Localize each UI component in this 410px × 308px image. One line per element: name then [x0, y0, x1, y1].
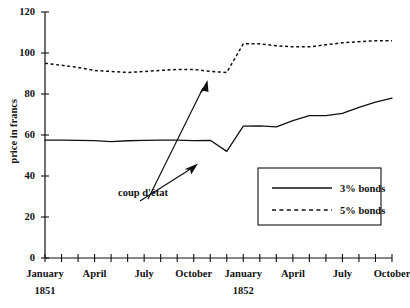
y-axis-tick-label: 20: [9, 212, 35, 223]
x-axis-tick-sublabel: 1851: [35, 286, 56, 297]
annotation-arrow-long-shaft: [148, 88, 203, 199]
x-axis-tick-label: July: [135, 269, 154, 280]
x-axis-tick-label: October: [175, 269, 212, 280]
y-axis-tick-label: 60: [9, 130, 35, 141]
legend-label-3-percent-bonds: 3% bonds: [340, 184, 385, 195]
annotation-arrow-short-head: [185, 164, 199, 175]
legend-label-5-percent-bonds: 5% bonds: [340, 206, 385, 217]
annotation-label-coup-detat: coup d'état: [118, 188, 168, 199]
x-axis-tick-label: January: [225, 269, 262, 280]
series-line-3-percent-bonds: [45, 98, 392, 151]
y-axis-tick-label: 100: [9, 48, 35, 59]
x-axis-tick-label: April: [83, 269, 107, 280]
series-line-5-percent-bonds: [45, 41, 392, 73]
x-axis-tick-label: July: [333, 269, 352, 280]
line-chart-plot: [0, 0, 410, 308]
annotation-arrow-long-head: [200, 80, 209, 94]
x-axis-tick-label: January: [26, 269, 63, 280]
y-axis-tick-label: 120: [9, 7, 35, 18]
x-axis-tick-label: April: [281, 269, 305, 280]
chart-container: price in francs 020406080100120 January1…: [0, 0, 410, 308]
y-axis-tick-label: 80: [9, 89, 35, 100]
x-axis-tick-label: October: [374, 269, 410, 280]
x-axis-tick-sublabel: 1852: [233, 286, 254, 297]
data-series-group: [45, 41, 392, 152]
y-axis-tick-label: 40: [9, 171, 35, 182]
y-axis-tick-label: 0: [9, 253, 35, 264]
